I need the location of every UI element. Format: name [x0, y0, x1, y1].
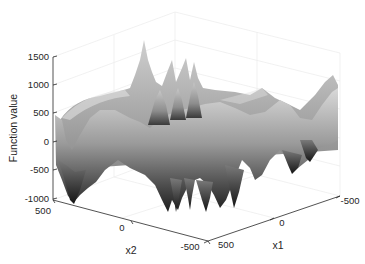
z-axis-label: Function value — [7, 94, 19, 162]
x1-tick: -500 — [340, 195, 359, 206]
x1-tick: 0 — [279, 217, 284, 228]
z-tick: 0 — [44, 136, 49, 147]
x1-tick-labels: 500 0 -500 — [218, 195, 359, 250]
z-tick-labels: 1500 1000 500 0 -500 -1000 — [25, 51, 49, 204]
x1-axis-label: x1 — [272, 239, 283, 251]
z-tick: 1500 — [28, 51, 49, 62]
z-tick: 500 — [33, 107, 49, 118]
x2-tick: -500 — [180, 241, 199, 252]
z-tick: -1000 — [25, 193, 49, 204]
surface-plot: 1500 1000 500 0 -500 -1000 500 0 -500 50… — [0, 0, 365, 264]
z-tick: -500 — [30, 164, 49, 175]
x2-tick: 500 — [35, 205, 51, 216]
surface — [55, 40, 338, 212]
x2-tick: 0 — [119, 222, 124, 233]
x1-tick: 500 — [218, 239, 234, 250]
z-tick: 1000 — [28, 79, 49, 90]
x2-axis-label: x2 — [125, 244, 136, 256]
x2-tick-labels: 500 0 -500 — [35, 205, 199, 252]
